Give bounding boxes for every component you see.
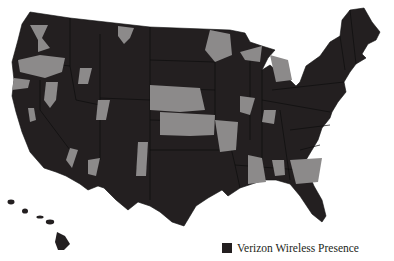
us-coverage-map (0, 0, 394, 261)
hawaii (8, 200, 71, 250)
legend-label: Verizon Wireless Presence (237, 242, 359, 254)
legend-swatch-presence (222, 243, 232, 253)
legend: Verizon Wireless Presence (222, 242, 359, 254)
